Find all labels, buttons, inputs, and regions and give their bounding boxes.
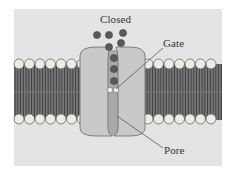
- label-pore: Pore: [164, 144, 185, 156]
- label-gate: Gate: [163, 37, 184, 49]
- ion-channel-diagram: [0, 0, 233, 180]
- title-closed: Closed: [100, 13, 131, 25]
- lipid-bilayer-right: [143, 59, 222, 124]
- lipid-bilayer-left: [14, 59, 88, 124]
